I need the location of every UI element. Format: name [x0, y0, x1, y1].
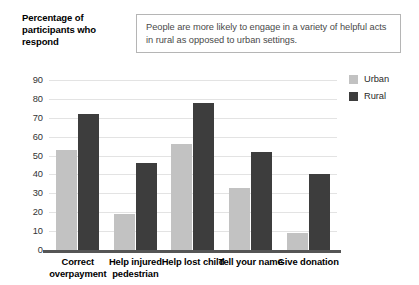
y-axis-tick-label: 70	[33, 113, 43, 123]
bar-group	[107, 80, 165, 250]
bar-group	[49, 80, 107, 250]
bar-urban[interactable]	[56, 150, 77, 250]
y-axis-tick-label: 20	[33, 207, 43, 217]
x-axis-category-label: Give donation	[271, 256, 345, 268]
bar-urban[interactable]	[171, 144, 192, 250]
bar-urban[interactable]	[229, 188, 250, 250]
y-axis-tick-label: 10	[33, 226, 43, 236]
y-axis-tick-label: 0	[38, 245, 43, 255]
gridline	[49, 250, 337, 251]
bar-rural[interactable]	[136, 163, 157, 250]
bar-rural[interactable]	[309, 174, 330, 250]
y-axis-tick-label: 60	[33, 132, 43, 142]
y-axis-tick-label: 50	[33, 151, 43, 161]
bar-urban[interactable]	[114, 214, 135, 250]
bar-rural[interactable]	[251, 152, 272, 250]
y-axis-tick-label: 40	[33, 169, 43, 179]
bar-group	[279, 80, 337, 250]
bar-group	[222, 80, 280, 250]
y-axis-tick-label: 80	[33, 94, 43, 104]
bar-urban[interactable]	[287, 233, 308, 250]
plot-canvas: 0102030405060708090Correct overpaymentHe…	[49, 80, 337, 250]
chart-plot-area: 0102030405060708090Correct overpaymentHe…	[0, 0, 419, 285]
bar-rural[interactable]	[78, 114, 99, 250]
bar-rural[interactable]	[193, 103, 214, 250]
bar-group	[164, 80, 222, 250]
y-axis-tick-label: 30	[33, 188, 43, 198]
y-axis-tick-label: 90	[33, 75, 43, 85]
